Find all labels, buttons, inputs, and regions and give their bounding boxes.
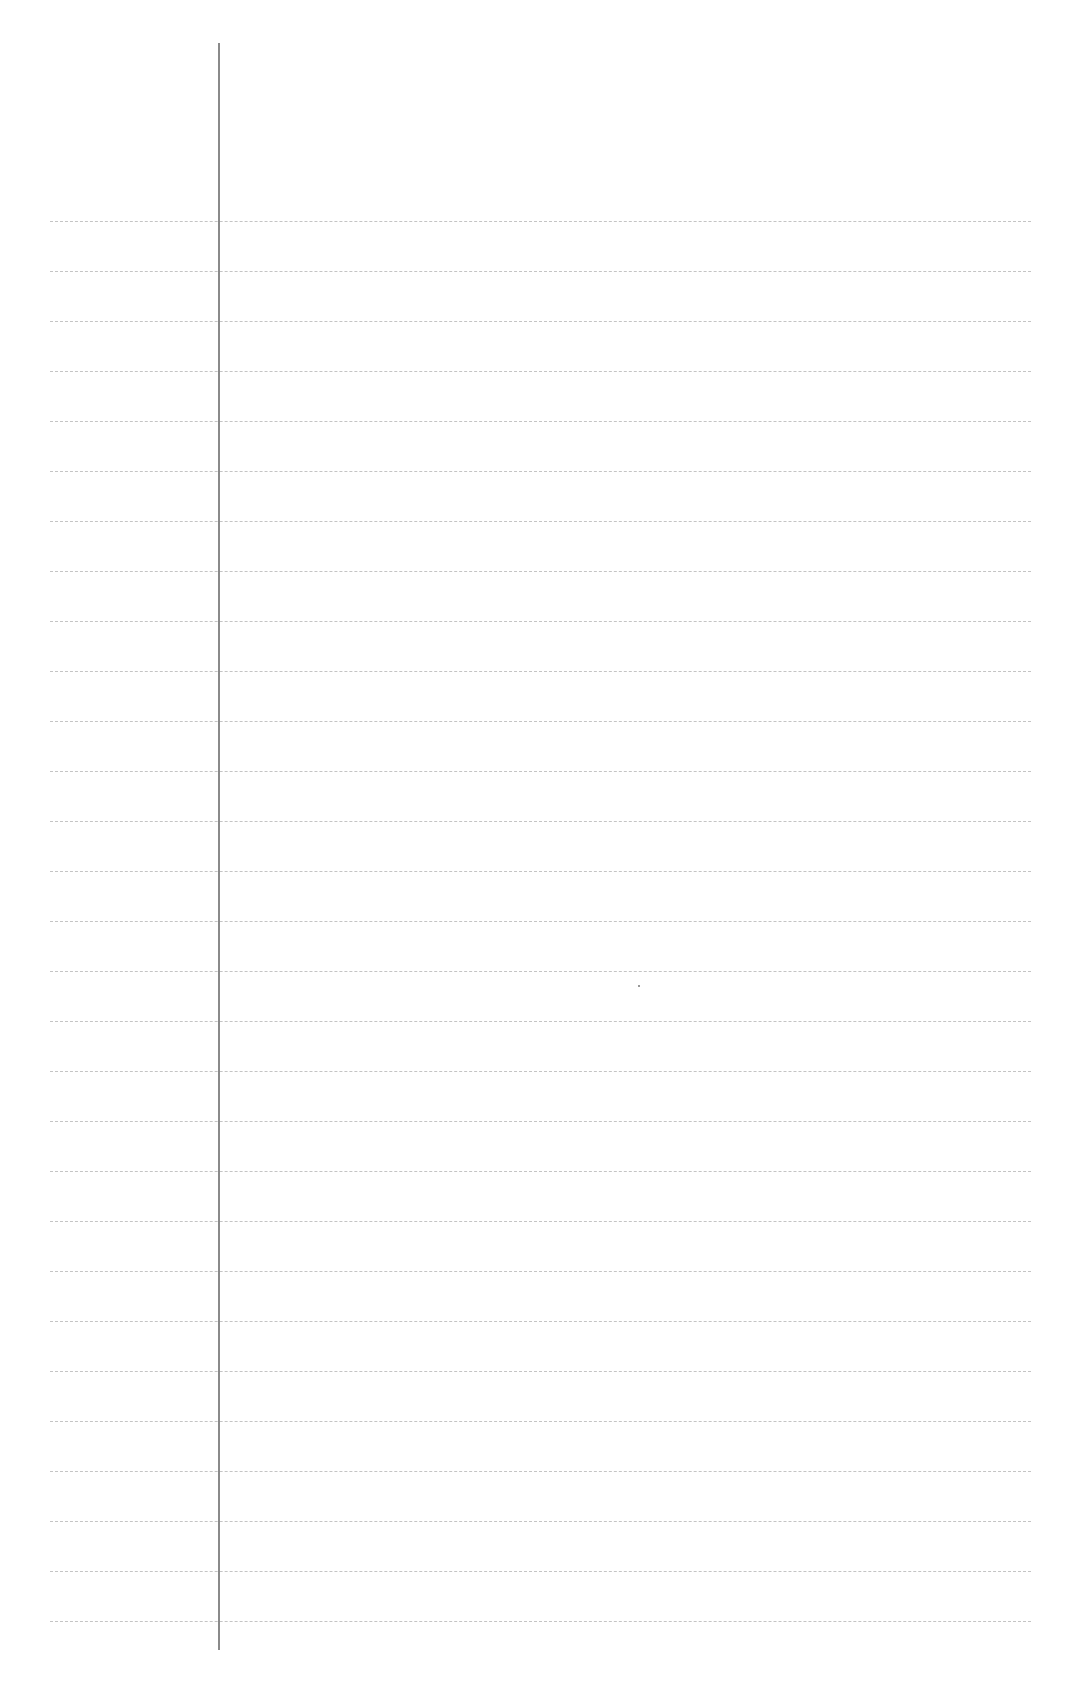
ruled-line xyxy=(50,1521,1031,1522)
ruled-line xyxy=(50,371,1031,372)
ruled-line xyxy=(50,571,1031,572)
ruled-line xyxy=(50,721,1031,722)
paper-speck xyxy=(638,985,640,987)
ruled-line xyxy=(50,671,1031,672)
ruled-line xyxy=(50,1321,1031,1322)
ruled-line xyxy=(50,1471,1031,1472)
ruled-line xyxy=(50,1121,1031,1122)
ruled-line xyxy=(50,871,1031,872)
ruled-line xyxy=(50,1071,1031,1072)
lined-paper-sheet xyxy=(0,0,1068,1693)
ruled-line xyxy=(50,1421,1031,1422)
ruled-line xyxy=(50,521,1031,522)
ruled-line xyxy=(50,221,1031,222)
ruled-line xyxy=(50,1371,1031,1372)
margin-line xyxy=(218,43,220,1650)
ruled-line xyxy=(50,1171,1031,1172)
ruled-line xyxy=(50,1221,1031,1222)
ruled-line xyxy=(50,1571,1031,1572)
ruled-line xyxy=(50,321,1031,322)
ruled-line xyxy=(50,921,1031,922)
ruled-line xyxy=(50,1021,1031,1022)
ruled-line xyxy=(50,771,1031,772)
ruled-line xyxy=(50,471,1031,472)
ruled-line xyxy=(50,821,1031,822)
ruled-line xyxy=(50,621,1031,622)
ruled-line xyxy=(50,1621,1031,1622)
ruled-line xyxy=(50,1271,1031,1272)
ruled-line xyxy=(50,971,1031,972)
ruled-line xyxy=(50,271,1031,272)
ruled-line xyxy=(50,421,1031,422)
